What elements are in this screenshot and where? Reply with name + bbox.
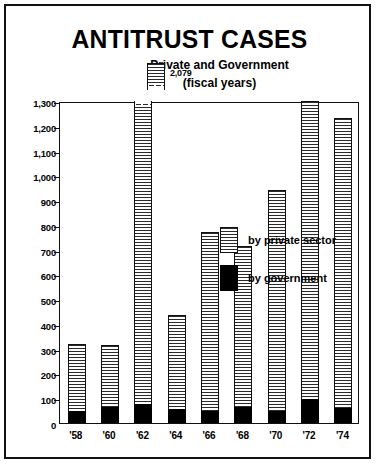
x-axis-tick-label: '62 [136,430,149,441]
y-axis-tick-label: 1,100 [33,147,56,158]
bar-y66[interactable] [201,232,219,423]
y-axis-tick-label: 1,200 [33,122,56,133]
bar-segment-government [68,411,86,423]
bar-y58[interactable] [68,344,86,423]
bar-y72[interactable] [301,101,319,423]
bar-segment-government [201,411,219,423]
bar-y64[interactable] [168,315,186,423]
y-axis-tick-mark [54,103,60,104]
y-axis-tick-mark [54,375,60,376]
x-axis-tick-label: '68 [236,430,249,441]
x-axis-tick-label: '64 [169,430,182,441]
y-axis-tick-label: 1,300 [33,98,56,109]
bar-segment-government [301,399,319,423]
y-axis-tick-mark [54,400,60,401]
bar-segment-private-sector [301,101,319,423]
bar-segment-government [101,407,119,423]
bar-y70[interactable] [268,190,286,423]
y-axis-tick-mark [54,351,60,352]
x-axis-tick-label: '70 [269,430,282,441]
y-axis-tick-mark [54,252,60,253]
bar-segment-government [268,411,286,423]
axis-break-zigzag-icon [148,83,164,90]
bar-segment-private-sector [201,232,219,423]
x-axis-tick-label: '60 [103,430,116,441]
bar-segment-private-sector [168,315,186,423]
chart-poster: ANTITRUST CASES Private and Government (… [4,4,371,459]
y-axis-tick-label: 0 [51,420,56,431]
bar-segment-private-sector [134,101,152,423]
bar-segment-government [334,408,352,423]
legend-label: by government [248,272,327,284]
y-axis-tick-mark [54,276,60,277]
bar-segment-private-sector [334,118,352,423]
chart-subtitle-line2: (fiscal years) [6,76,371,90]
legend-swatch-private [220,227,238,253]
bar-y74[interactable] [334,118,352,423]
x-axis-tick-label: '58 [69,430,82,441]
bar-segment-government [134,404,152,423]
y-axis-tick-mark [54,326,60,327]
y-axis-tick-mark [54,128,60,129]
legend-swatch-gov [220,265,238,291]
axis-break-zigzag-icon [135,100,151,107]
x-axis-tick-label: '66 [203,430,216,441]
y-axis-tick-mark [54,202,60,203]
y-axis-tick-mark [54,227,60,228]
legend-label: by private sector [248,234,336,246]
bar-value-label-1962: 2,079 [170,68,192,78]
x-axis-tick-label: '74 [336,430,349,441]
y-axis-tick-mark [54,177,60,178]
y-axis-tick-mark [54,153,60,154]
bar-y62[interactable] [134,101,152,423]
y-axis-tick-label: 1,000 [33,172,56,183]
chart-title: ANTITRUST CASES [15,24,364,55]
y-axis-tick-mark [54,301,60,302]
plot-area: 01002003004005006007008009001,0001,1001,… [59,102,359,424]
x-axis-tick-label: '72 [303,430,316,441]
broken-bar-top-segment [147,63,165,90]
bar-segment-government [234,407,252,423]
bar-y60[interactable] [101,345,119,423]
bar-segment-government [168,409,186,423]
bar-segment-private-sector [268,190,286,423]
